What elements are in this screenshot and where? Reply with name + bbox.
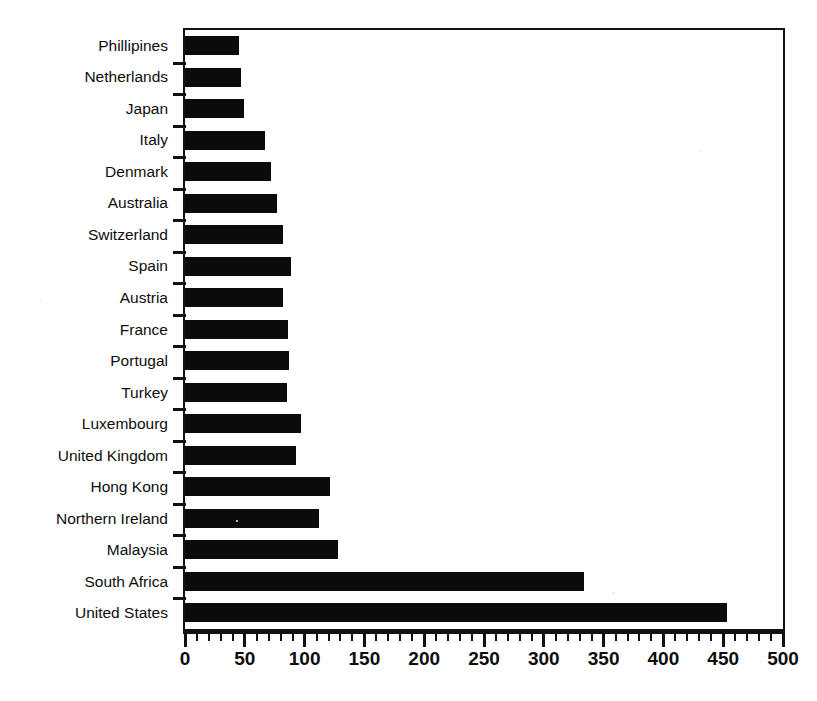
value-tick-label-200: 200: [408, 649, 440, 669]
value-tick-major: [363, 634, 366, 647]
bar-denmark: [185, 162, 271, 181]
category-tick: [173, 188, 186, 191]
bar-row: [185, 534, 783, 566]
bar-row: [185, 125, 783, 157]
bar-row: [185, 345, 783, 377]
bar-row: [185, 566, 783, 598]
bar-malaysia: [185, 540, 338, 559]
value-tick-minor: [387, 634, 389, 641]
value-tick-minor: [770, 634, 772, 641]
category-tick: [173, 471, 186, 474]
value-tick-minor: [650, 634, 652, 641]
paper-speckle: [90, 430, 93, 432]
value-tick-major: [722, 634, 725, 647]
bar-austria: [185, 288, 283, 307]
value-tick-minor: [519, 634, 521, 641]
value-tick-minor: [328, 634, 330, 641]
value-tick-minor: [339, 634, 341, 641]
value-tick-minor: [495, 634, 497, 641]
value-tick-minor: [292, 634, 294, 641]
value-tick-major: [602, 634, 605, 647]
category-tick: [173, 534, 186, 537]
bar-row: [185, 219, 783, 251]
value-tick-minor: [435, 634, 437, 641]
value-tick-label-0: 0: [180, 649, 191, 669]
bar-chart-figure: PhillipinesNetherlandsJapanItalyDenmarkA…: [0, 0, 817, 701]
bar-row: [185, 597, 783, 629]
bar-france: [185, 320, 288, 339]
category-tick: [173, 377, 186, 380]
bar-row: [185, 440, 783, 472]
paper-speckle: [760, 660, 762, 662]
bar-italy: [185, 131, 265, 150]
bar-south-africa: [185, 572, 584, 591]
category-tick: [173, 503, 186, 506]
category-label-northern-ireland: Northern Ireland: [56, 511, 168, 527]
value-tick-minor: [399, 634, 401, 641]
category-label-malaysia: Malaysia: [107, 542, 168, 558]
category-tick: [173, 62, 186, 65]
bars-container: [185, 30, 783, 629]
bar-spain: [185, 257, 291, 276]
value-tick-minor: [686, 634, 688, 641]
bar-row: [185, 156, 783, 188]
bar-row: [185, 188, 783, 220]
bar-united-states: [185, 603, 727, 622]
category-label-portugal: Portugal: [110, 353, 168, 369]
value-tick-minor: [507, 634, 509, 641]
value-tick-minor: [232, 634, 234, 641]
category-label-australia: Australia: [108, 195, 168, 211]
value-tick-minor: [734, 634, 736, 641]
category-label-denmark: Denmark: [105, 164, 168, 180]
value-tick-minor: [351, 634, 353, 641]
value-tick-minor: [579, 634, 581, 641]
value-tick-label-500: 500: [767, 649, 799, 669]
value-tick-minor: [638, 634, 640, 641]
bar-portugal: [185, 351, 289, 370]
category-label-phillipines: Phillipines: [98, 38, 168, 54]
category-tick: [173, 251, 186, 254]
bar-australia: [185, 194, 277, 213]
category-label-switzerland: Switzerland: [88, 227, 168, 243]
bar-netherlands: [185, 68, 241, 87]
value-tick-minor: [698, 634, 700, 641]
value-tick-label-250: 250: [468, 649, 500, 669]
category-label-netherlands: Netherlands: [84, 69, 168, 85]
value-tick-label-400: 400: [648, 649, 680, 669]
bar-row: [185, 282, 783, 314]
top-cropped-text: [196, 0, 336, 5]
value-tick-minor: [746, 634, 748, 641]
category-label-italy: Italy: [140, 132, 168, 148]
value-axis: 050100150200250300350400450500: [183, 631, 785, 691]
value-tick-minor: [674, 634, 676, 641]
value-tick-minor: [710, 634, 712, 641]
value-tick-minor: [758, 634, 760, 641]
category-label-turkey: Turkey: [121, 385, 168, 401]
value-tick-major: [483, 634, 486, 647]
bar-row: [185, 62, 783, 94]
bar-switzerland: [185, 225, 283, 244]
value-tick-minor: [268, 634, 270, 641]
value-tick-label-350: 350: [588, 649, 620, 669]
value-tick-minor: [615, 634, 617, 641]
category-label-spain: Spain: [128, 258, 168, 274]
value-tick-major: [423, 634, 426, 647]
value-tick-minor: [591, 634, 593, 641]
category-label-japan: Japan: [126, 101, 168, 117]
value-tick-minor: [208, 634, 210, 641]
category-tick: [173, 125, 186, 128]
value-tick-minor: [447, 634, 449, 641]
value-tick-minor: [256, 634, 258, 641]
value-tick-major: [303, 634, 306, 647]
value-tick-minor: [567, 634, 569, 641]
value-tick-minor: [411, 634, 413, 641]
value-tick-label-50: 50: [234, 649, 255, 669]
bar-united-kingdom: [185, 446, 296, 465]
value-tick-minor: [555, 634, 557, 641]
category-tick: [173, 566, 186, 569]
value-tick-major: [184, 634, 187, 647]
paper-speckle: [40, 300, 42, 302]
bar-turkey: [185, 383, 287, 402]
bar-row: [185, 377, 783, 409]
value-tick-major: [243, 634, 246, 647]
